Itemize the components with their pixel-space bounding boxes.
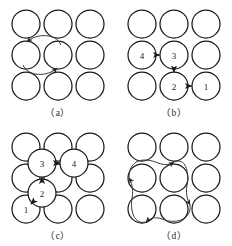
node-circle [12, 72, 40, 100]
figure-container: （a） [0, 0, 232, 246]
node-circle [76, 10, 104, 38]
node-circle [12, 41, 40, 69]
node-circle [192, 133, 220, 161]
node-circle [160, 10, 188, 38]
node-label-3: 3 [40, 159, 45, 169]
panel-b-caption: （b） [116, 105, 232, 119]
panel-b: 4 3 2 1 （b） [116, 0, 232, 123]
node-circle [44, 10, 72, 38]
node-circle [44, 41, 72, 69]
node-label-1: 1 [204, 82, 209, 92]
node-label-1: 1 [24, 205, 29, 215]
node-label-3: 3 [172, 51, 177, 61]
node-circle [160, 133, 188, 161]
node-circle [128, 72, 156, 100]
node-circle [128, 10, 156, 38]
panel-a-caption: （a） [0, 105, 116, 119]
grid-nodes-d [128, 133, 220, 223]
node-circle [192, 41, 220, 69]
node-circle [76, 72, 104, 100]
panel-a: （a） [0, 0, 116, 123]
node-circle [192, 164, 220, 192]
grid-nodes-a [12, 10, 104, 100]
panel-d: （d） [116, 123, 232, 246]
panel-d-caption: （d） [116, 228, 232, 242]
node-label-2: 2 [172, 82, 177, 92]
node-circle [44, 72, 72, 100]
node-circle [12, 10, 40, 38]
panel-c: 1 2 3 4 （c） [0, 123, 116, 246]
node-label-4: 4 [72, 159, 77, 169]
node-circle [76, 195, 104, 223]
node-circle [128, 133, 156, 161]
node-circle [192, 10, 220, 38]
panel-c-caption: （c） [0, 228, 116, 242]
node-label-4: 4 [140, 51, 145, 61]
node-circle [160, 164, 188, 192]
node-label-2: 2 [40, 189, 45, 199]
node-circle [76, 41, 104, 69]
node-circle [192, 195, 220, 223]
